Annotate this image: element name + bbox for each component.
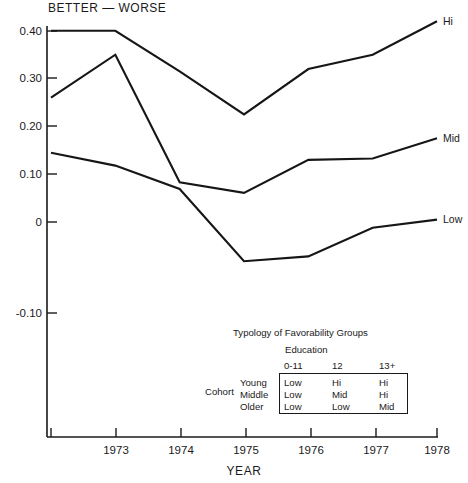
x-tick-marks: [51, 428, 437, 437]
typology-legend: Typology of Favorability Groups Educatio…: [205, 327, 455, 427]
matrix-cell-0-0: Low: [284, 377, 302, 388]
series-line-hi: [51, 21, 437, 114]
education-level-2: 13+: [379, 360, 395, 371]
education-level-1: 12: [332, 360, 343, 371]
x-tick-label-4: 1976: [298, 444, 324, 456]
matrix-cell-2-1: Low: [332, 401, 350, 412]
x-tick-label-5: 1977: [363, 444, 389, 456]
series-label-low: Low: [443, 213, 463, 225]
legend-education-label: Education: [285, 344, 328, 355]
y-tick-marks: [47, 31, 57, 313]
page-title: BETTER — WORSE: [48, 1, 166, 15]
matrix-cell-0-2: Hi: [379, 377, 388, 388]
series-label-mid: Mid: [443, 132, 460, 144]
x-axis-title: YEAR: [226, 464, 261, 478]
series-label-hi: Hi: [443, 15, 453, 27]
cohort-row-1: Middle: [240, 389, 268, 400]
legend-title: Typology of Favorability Groups: [233, 327, 368, 338]
matrix-cell-1-1: Mid: [332, 389, 347, 400]
y-tick-label-1: 0.30: [20, 72, 42, 84]
y-tick-label-2: 0.20: [20, 120, 42, 132]
cohort-row-2: Older: [240, 401, 263, 412]
favorability-trend-chart: 0.40 0.30 0.20 0.10 0 -0.10 1973 1974 19…: [0, 0, 468, 483]
y-tick-label-5: -0.10: [16, 307, 42, 319]
y-tick-label-0: 0.40: [20, 25, 42, 37]
series-line-mid: [51, 55, 437, 193]
series-group: [51, 21, 437, 261]
matrix-cell-0-1: Hi: [332, 377, 341, 388]
education-level-0: 0-11: [284, 360, 303, 371]
x-tick-label-3: 1975: [233, 444, 259, 456]
matrix-cell-1-2: Hi: [379, 389, 388, 400]
y-tick-label-4: 0: [36, 216, 42, 228]
legend-cohort-label: Cohort: [205, 386, 234, 397]
cohort-row-0: Young: [240, 377, 267, 388]
x-tick-label-2: 1974: [168, 444, 194, 456]
matrix-cell-2-2: Mid: [379, 401, 394, 412]
matrix-cell-1-0: Low: [284, 389, 302, 400]
series-line-low: [51, 153, 437, 262]
y-tick-label-3: 0.10: [20, 168, 42, 180]
series-label-group: HiMidLow: [443, 15, 463, 225]
x-tick-label-1: 1973: [103, 444, 129, 456]
x-tick-label-6: 1978: [424, 444, 450, 456]
matrix-cell-2-0: Low: [284, 401, 302, 412]
